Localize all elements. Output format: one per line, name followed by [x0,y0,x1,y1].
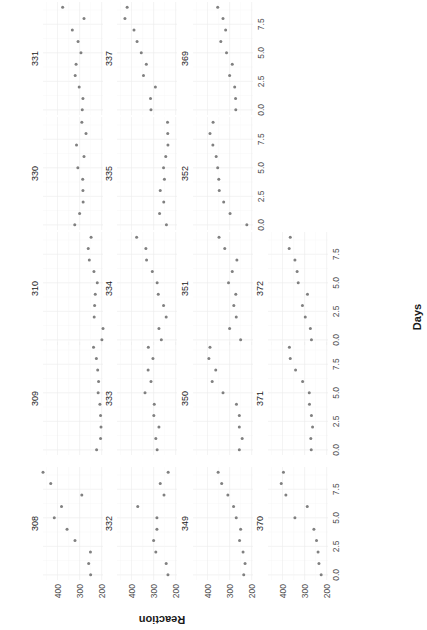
data-point [99,414,102,417]
data-point [317,551,320,554]
data-point [123,17,126,20]
data-point [242,573,245,576]
x-tick-label: 2.5 [331,305,341,317]
x-tick-label: 2.5 [256,75,266,87]
data-point [100,426,103,429]
data-point [294,368,297,371]
data-point [211,380,214,383]
data-point [95,357,98,360]
panel-grid [43,2,103,115]
data-point [227,281,230,284]
facet-panel-351: 351 [180,232,253,345]
data-point [42,471,45,474]
data-point [73,539,76,542]
panel-grid [193,117,253,230]
data-point [301,380,304,383]
facet-panel-309: 309 [30,342,103,455]
data-point [216,6,219,9]
data-point [160,338,163,341]
data-point [165,223,168,226]
data-point [87,562,90,565]
y-tick-label: 300 [75,584,85,598]
data-point [239,528,242,531]
x-tick-label: 0.0 [256,219,266,231]
data-point [228,74,231,77]
data-point [88,258,91,261]
data-point [306,293,309,296]
data-point [102,327,105,330]
data-point [98,403,101,406]
data-point [157,426,160,429]
data-point [309,437,312,440]
facet-strip-label: 351 [180,281,190,296]
data-point [310,414,313,417]
facet-panel-310: 310 [30,232,105,345]
data-point [149,108,152,111]
data-point [234,97,237,100]
data-point [225,51,228,54]
x-tick-label: 5.0 [256,162,266,174]
data-point [159,482,162,485]
data-point [81,189,84,192]
data-point [222,391,225,394]
data-point [288,247,291,250]
facet-panel-369: 3690.02.55.07.5 [180,2,266,116]
data-point [79,51,82,54]
x-tick-label: 2.5 [256,190,266,202]
facet-panel-335: 335 [104,117,177,230]
data-point [60,505,63,508]
facet-strip-label: 334 [104,281,114,296]
data-point [144,247,147,250]
data-point [151,270,154,273]
facet-strip-label: 350 [180,391,190,406]
facet-panel-370: 3702003004000.02.55.07.5 [255,467,341,598]
x-tick-label: 7.5 [256,18,266,30]
data-point [288,346,291,349]
data-point [234,108,237,111]
panel-grid [43,232,103,345]
data-point [239,338,242,341]
data-point [136,40,139,43]
data-point [93,304,96,307]
data-point [158,212,161,215]
data-point [289,236,292,239]
data-point [164,155,167,158]
data-point [231,63,234,66]
x-tick-label: 0.0 [256,104,266,116]
facet-strip-label: 337 [104,51,114,66]
faceted-scatter-chart: 3082003004003093103303313322003004003333… [0,0,427,630]
data-point [284,493,287,496]
data-point [238,448,241,451]
data-point [244,562,247,565]
data-point [77,40,80,43]
data-point [99,437,102,440]
x-tick-label: 5.0 [331,512,341,524]
data-point [215,155,218,158]
data-point [212,121,215,124]
data-point [217,471,220,474]
panel-grid [43,117,103,230]
data-point [232,304,235,307]
data-point [145,258,148,261]
x-tick-label: 2.5 [331,415,341,427]
data-point [235,516,238,519]
data-point [224,28,227,31]
data-point [145,63,148,66]
y-axis-label: Reaction [138,614,185,626]
y-tick-label: 200 [97,584,107,598]
data-point [167,471,170,474]
data-point [310,448,313,451]
facet-strip-label: 310 [30,281,40,296]
data-point [166,121,169,124]
facet-panel-331: 331 [30,2,103,115]
data-point [165,316,168,319]
data-point [297,281,300,284]
data-point [147,368,150,371]
facet-panel-371: 3710.02.55.07.5 [255,342,341,456]
data-point [94,293,97,296]
facet-strip-label: 352 [180,166,190,181]
data-point [228,327,231,330]
data-point [214,368,217,371]
data-point [165,562,168,565]
data-point [166,132,169,135]
